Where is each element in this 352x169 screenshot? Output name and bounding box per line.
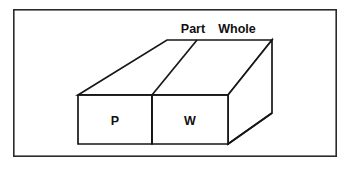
label-p: P	[111, 114, 119, 128]
label-part: Part	[181, 22, 206, 36]
part-whole-box-diagram: Part Whole P W	[0, 0, 352, 169]
label-whole: Whole	[218, 22, 256, 36]
label-w: W	[184, 114, 196, 128]
figure-container: Part Whole P W	[0, 0, 352, 169]
